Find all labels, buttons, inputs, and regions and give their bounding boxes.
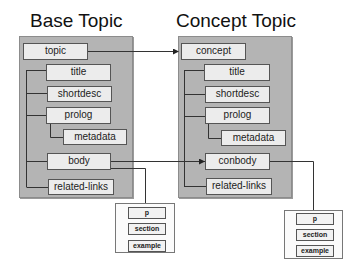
- node-related-links: related-links: [48, 179, 114, 195]
- body-content-box: p section example: [115, 203, 175, 253]
- node-title: title: [46, 64, 111, 81]
- node-topic: topic: [23, 43, 88, 60]
- content-example: example: [128, 240, 166, 252]
- content-p: p: [128, 207, 166, 219]
- node-title-concept: title: [204, 64, 270, 81]
- node-metadata-concept: metadata: [221, 130, 286, 146]
- content-section: section: [128, 223, 166, 235]
- base-topic-heading: Base Topic: [30, 10, 123, 32]
- conbody-content-box: p section example: [284, 210, 343, 259]
- concept-topic-heading: Concept Topic: [176, 10, 296, 32]
- node-shortdesc: shortdesc: [47, 86, 112, 102]
- node-prolog: prolog: [46, 107, 111, 124]
- node-metadata: metadata: [63, 129, 127, 145]
- node-related-links-concept: related-links: [206, 178, 272, 195]
- content-example-concept: example: [296, 245, 334, 257]
- node-shortdesc-concept: shortdesc: [205, 86, 270, 103]
- content-p-concept: p: [296, 213, 334, 225]
- content-section-concept: section: [296, 229, 334, 241]
- node-concept: concept: [181, 43, 246, 60]
- node-body: body: [47, 153, 111, 170]
- node-prolog-concept: prolog: [205, 107, 270, 124]
- node-conbody: conbody: [205, 153, 270, 170]
